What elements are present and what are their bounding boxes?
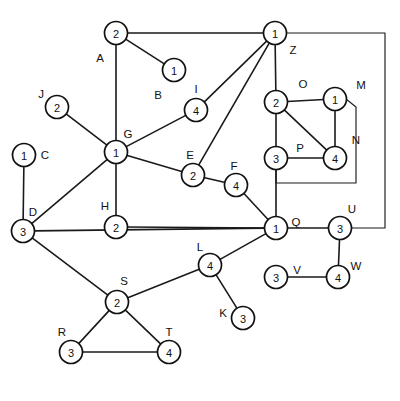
- edge-layer: [23, 33, 339, 352]
- graph-edge: [31, 159, 107, 224]
- graph-node[interactable]: 4: [199, 254, 222, 277]
- graph-edge: [127, 155, 183, 172]
- graph-node[interactable]: 2: [106, 291, 129, 314]
- node-value: 4: [332, 153, 338, 165]
- graph-node[interactable]: 3: [329, 217, 352, 240]
- node-label: N: [352, 134, 360, 146]
- graph-edge: [23, 166, 24, 220]
- graph-node[interactable]: 1: [13, 144, 36, 167]
- node-label: I: [194, 83, 197, 95]
- node-value: 1: [272, 28, 278, 40]
- node-label: T: [165, 326, 172, 338]
- graph-node[interactable]: 4: [324, 147, 347, 170]
- node-label: J: [38, 88, 44, 100]
- node-value: 1: [273, 223, 279, 235]
- node-value: 1: [171, 65, 177, 77]
- graph-edge: [34, 228, 265, 231]
- graph-canvas: 214211241213432134343234 ABIJCGEFZOMPNDH…: [0, 0, 400, 401]
- graph-node[interactable]: 4: [185, 99, 208, 122]
- node-value: 4: [233, 180, 239, 192]
- node-label: K: [219, 307, 227, 319]
- graph-node[interactable]: 4: [327, 266, 350, 289]
- graph-node[interactable]: 1: [163, 59, 186, 82]
- graph-node[interactable]: 2: [46, 96, 69, 119]
- graph-edge: [78, 310, 109, 344]
- graph-edge: [126, 115, 187, 147]
- node-value: 3: [273, 153, 279, 165]
- graph-node[interactable]: 2: [265, 91, 288, 114]
- graph-node[interactable]: 1: [324, 88, 347, 111]
- graph-edge: [287, 100, 324, 102]
- node-label: H: [101, 200, 109, 212]
- node-label: R: [58, 326, 66, 338]
- graph-node[interactable]: 3: [265, 147, 288, 170]
- node-value: 3: [273, 272, 279, 284]
- node-label: A: [96, 52, 104, 64]
- node-value: 3: [68, 347, 74, 359]
- node-value: 2: [273, 97, 279, 109]
- node-value: 2: [113, 28, 119, 40]
- node-label: F: [230, 160, 237, 172]
- node-label: W: [351, 260, 362, 272]
- graph-edge: [125, 310, 161, 345]
- graph-edge: [32, 238, 108, 296]
- graph-node[interactable]: 3: [232, 307, 255, 330]
- node-value: 4: [207, 260, 213, 272]
- node-label: P: [296, 142, 304, 154]
- graph-edge: [275, 44, 276, 91]
- node-value: 4: [166, 347, 172, 359]
- node-label: M: [356, 79, 366, 91]
- graph-node[interactable]: 4: [225, 174, 248, 197]
- node-label: V: [293, 264, 301, 276]
- graph-node[interactable]: 3: [265, 266, 288, 289]
- graph-node[interactable]: 3: [60, 341, 83, 364]
- node-value: 2: [113, 222, 119, 234]
- graph-edge: [66, 114, 108, 146]
- graph-edge: [127, 269, 200, 298]
- node-label: B: [154, 89, 162, 101]
- node-label: D: [29, 206, 37, 218]
- graph-node[interactable]: 2: [105, 216, 128, 239]
- routed-edge-layer: [275, 33, 385, 228]
- graph-node[interactable]: 1: [105, 141, 128, 164]
- node-label: C: [41, 149, 49, 161]
- graph-edge: [284, 110, 327, 151]
- graph-node[interactable]: 2: [105, 22, 128, 45]
- graph-edge: [204, 177, 226, 182]
- node-value: 1: [21, 150, 27, 162]
- graph-node[interactable]: 4: [158, 341, 181, 364]
- node-value: 3: [337, 223, 343, 235]
- node-label: E: [186, 149, 194, 161]
- node-value: 2: [114, 297, 120, 309]
- graph-node[interactable]: 1: [265, 217, 288, 240]
- node-label: U: [348, 203, 356, 215]
- graph-edge: [275, 33, 385, 228]
- node-label: G: [124, 128, 133, 140]
- graph-edge: [243, 193, 268, 220]
- graph-edge: [125, 39, 164, 64]
- graph-node[interactable]: 1: [264, 22, 287, 45]
- node-value: 4: [193, 105, 199, 117]
- node-label: Q: [292, 216, 301, 228]
- graph-edge: [220, 233, 267, 259]
- node-value: 2: [54, 102, 60, 114]
- graph-node[interactable]: 3: [12, 220, 35, 243]
- graph-edge: [199, 43, 270, 166]
- node-value: 4: [335, 272, 341, 284]
- network-diagram: 214211241213432134343234 ABIJCGEFZOMPNDH…: [0, 0, 400, 401]
- graph-node[interactable]: 2: [182, 164, 205, 187]
- node-label: O: [299, 78, 308, 90]
- node-value: 3: [240, 313, 246, 325]
- node-value: 3: [20, 226, 26, 238]
- node-label-layer: ABIJCGEFZOMPNDHQULVWKSRT: [29, 44, 366, 338]
- graph-edge: [216, 274, 237, 308]
- graph-edge: [127, 227, 265, 228]
- node-value: 1: [113, 147, 119, 159]
- node-label: S: [120, 275, 128, 287]
- graph-edge: [338, 239, 339, 266]
- graph-edge: [204, 41, 267, 103]
- node-layer: 214211241213432134343234: [12, 22, 352, 364]
- node-value: 2: [190, 170, 196, 182]
- node-value: 1: [332, 94, 338, 106]
- node-label: Z: [289, 44, 296, 56]
